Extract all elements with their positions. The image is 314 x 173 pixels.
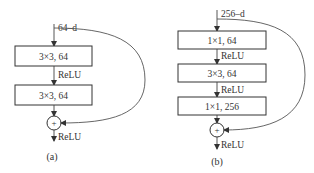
input-label-b: 256–d <box>221 9 245 19</box>
layer-label-b-3: 1×1, 256 <box>205 102 239 112</box>
layer-label-a-1: 3×3, 64 <box>39 52 68 62</box>
block-b: 256–d 1×1, 64 ReLU 3×3, 64 ReLU 1×1, 256… <box>178 9 305 168</box>
layer-label-b-1: 1×1, 64 <box>207 36 236 46</box>
output-relu-label-a: ReLU <box>58 132 81 142</box>
caption-b: (b) <box>211 156 223 168</box>
layer-label-a-2: 3×3, 64 <box>39 91 68 101</box>
caption-a: (a) <box>46 151 57 163</box>
relu-label-b-1: ReLU <box>221 51 244 61</box>
relu-label-b-2: ReLU <box>221 85 244 95</box>
layer-label-b-2: 3×3, 64 <box>207 69 236 79</box>
output-relu-label-b: ReLU <box>221 140 244 150</box>
block-a: 64–d 3×3, 64 ReLU 3×3, 64 + ReLU (a) <box>15 23 145 163</box>
relu-label-a-1: ReLU <box>58 70 81 80</box>
residual-blocks-figure: 64–d 3×3, 64 ReLU 3×3, 64 + ReLU (a) 256… <box>0 0 314 173</box>
plus-icon-b: + <box>214 125 219 135</box>
plus-icon-a: + <box>51 118 56 128</box>
